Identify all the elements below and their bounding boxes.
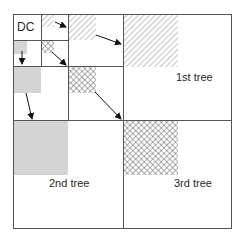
level3-vertical-gray [14,40,27,54]
arrow-l2h-to-l1h [96,35,121,44]
tree2-gray-block [14,121,68,175]
arrow-l3d-to-l2d [52,52,66,65]
second-tree-label: 2nd tree [49,178,89,189]
quadtree-diagram [0,0,244,241]
arrow-l2d-to-l1d [95,92,121,119]
dc-label: DC [17,21,34,33]
third-tree-label: 3rd tree [174,178,212,189]
level2-diagonal-crosshatch [68,66,96,93]
level3-diagonal-crosshatch [41,40,54,53]
arrow-l3h-to-l2h [55,22,66,27]
subband-fills [14,14,178,175]
level1-horizontal-hatch [123,14,178,67]
arrow-l2v-to-l1v [26,93,32,119]
level2-vertical-gray [14,66,41,93]
level3-horizontal-hatch [41,14,54,27]
first-tree-label: 1st tree [176,72,213,83]
tree3-crosshatch-block [123,121,178,175]
level2-horizontal-hatch [68,14,96,40]
